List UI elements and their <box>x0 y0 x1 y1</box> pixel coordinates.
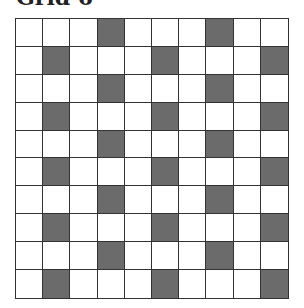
grid-cell-empty <box>70 19 97 47</box>
grid-cell-shaded <box>206 131 233 159</box>
grid-cell-empty <box>16 270 43 298</box>
grid-cell-empty <box>125 19 152 47</box>
grid-cell-empty <box>16 75 43 103</box>
grid-cell-empty <box>206 47 233 75</box>
grid-cell-empty <box>234 242 261 270</box>
grid-cell-empty <box>261 19 288 47</box>
grid-cell-empty <box>179 214 206 242</box>
grid-cell-shaded <box>98 75 125 103</box>
grid-cell-empty <box>152 75 179 103</box>
pattern-grid <box>15 18 289 299</box>
grid-cell-empty <box>206 270 233 298</box>
grid-cell-empty <box>70 47 97 75</box>
grid-cell-shaded <box>152 158 179 186</box>
grid-cell-shaded <box>152 270 179 298</box>
grid-cell-empty <box>179 103 206 131</box>
grid-cell-empty <box>261 186 288 214</box>
grid-cell-empty <box>234 103 261 131</box>
grid-cell-empty <box>125 270 152 298</box>
grid-cell-empty <box>179 158 206 186</box>
grid-cell-empty <box>125 186 152 214</box>
grid-cell-shaded <box>261 103 288 131</box>
grid-cell-empty <box>98 158 125 186</box>
grid-cell-shaded <box>43 47 70 75</box>
grid-cell-empty <box>16 131 43 159</box>
grid-cell-empty <box>179 75 206 103</box>
grid-cell-shaded <box>206 75 233 103</box>
grid-cell-empty <box>70 75 97 103</box>
grid-cell-shaded <box>98 242 125 270</box>
grid-cell-empty <box>152 131 179 159</box>
grid-cell-empty <box>152 242 179 270</box>
grid-cell-empty <box>125 242 152 270</box>
grid-cell-empty <box>98 103 125 131</box>
grid-cell-empty <box>125 131 152 159</box>
grid-cell-shaded <box>43 158 70 186</box>
grid-cell-empty <box>70 270 97 298</box>
grid-cell-empty <box>16 242 43 270</box>
grid-title: Grid 6 <box>16 0 93 8</box>
grid-cell-shaded <box>206 242 233 270</box>
grid-cell-empty <box>179 47 206 75</box>
grid-cell-empty <box>125 47 152 75</box>
grid-cell-empty <box>179 19 206 47</box>
grid-cell-empty <box>125 75 152 103</box>
grid-cell-shaded <box>206 186 233 214</box>
grid-cell-empty <box>234 47 261 75</box>
grid-cell-shaded <box>152 47 179 75</box>
grid-cell-empty <box>43 131 70 159</box>
grid-cell-empty <box>16 214 43 242</box>
grid-cell-empty <box>70 242 97 270</box>
grid-cell-empty <box>125 158 152 186</box>
grid-cell-empty <box>98 47 125 75</box>
grid-cell-empty <box>261 75 288 103</box>
grid-cell-empty <box>206 214 233 242</box>
grid-cell-empty <box>234 131 261 159</box>
grid-cell-empty <box>70 186 97 214</box>
grid-cell-shaded <box>261 158 288 186</box>
grid-cell-empty <box>179 270 206 298</box>
grid-cell-empty <box>16 103 43 131</box>
grid-cell-shaded <box>98 19 125 47</box>
grid-cell-empty <box>179 131 206 159</box>
grid-cell-empty <box>98 270 125 298</box>
grid-cell-shaded <box>261 270 288 298</box>
grid-cell-shaded <box>43 214 70 242</box>
grid-cell-empty <box>234 19 261 47</box>
grid-cell-empty <box>234 75 261 103</box>
grid-cell-empty <box>152 19 179 47</box>
grid-cell-empty <box>261 242 288 270</box>
grid-cell-empty <box>234 186 261 214</box>
grid-cell-empty <box>234 270 261 298</box>
grid-cell-empty <box>261 131 288 159</box>
grid-cell-shaded <box>152 103 179 131</box>
grid-cell-empty <box>152 186 179 214</box>
grid-cell-shaded <box>98 186 125 214</box>
grid-cell-empty <box>16 47 43 75</box>
grid-cell-shaded <box>43 103 70 131</box>
grid-cell-empty <box>70 214 97 242</box>
grid-cell-empty <box>179 186 206 214</box>
grid-cell-shaded <box>206 19 233 47</box>
grid-cell-empty <box>98 214 125 242</box>
grid-cell-empty <box>43 75 70 103</box>
grid-cell-empty <box>16 158 43 186</box>
grid-cell-empty <box>43 19 70 47</box>
grid-cell-empty <box>70 158 97 186</box>
grid-cell-empty <box>206 158 233 186</box>
grid-cell-empty <box>234 158 261 186</box>
grid-cell-empty <box>43 242 70 270</box>
grid-cell-empty <box>43 186 70 214</box>
grid-cell-shaded <box>43 270 70 298</box>
grid-cell-empty <box>206 103 233 131</box>
grid-cell-empty <box>16 186 43 214</box>
grid-cell-empty <box>70 131 97 159</box>
grid-cell-shaded <box>261 214 288 242</box>
grid-cell-empty <box>125 103 152 131</box>
grid-cell-empty <box>179 242 206 270</box>
grid-cell-shaded <box>152 214 179 242</box>
grid-cell-shaded <box>261 47 288 75</box>
grid-cell-empty <box>16 19 43 47</box>
grid-cell-empty <box>125 214 152 242</box>
grid-cell-shaded <box>98 131 125 159</box>
